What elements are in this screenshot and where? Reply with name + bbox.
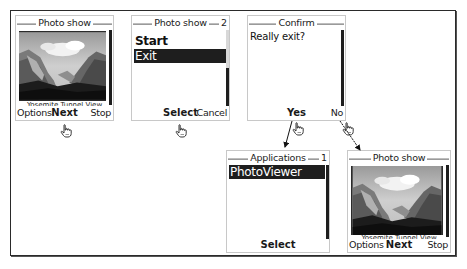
transition-arrows (0, 0, 467, 269)
arrow-yes-to-applications (285, 121, 292, 147)
arrow-no-to-photo-show (340, 121, 360, 150)
